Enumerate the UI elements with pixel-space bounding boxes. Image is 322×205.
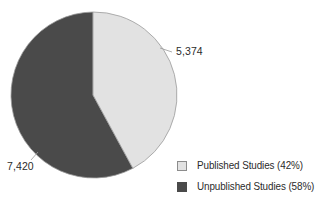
legend-label-published: Published Studies (42%) (197, 160, 303, 171)
pie-value-label-published: 5,374 (176, 46, 203, 57)
legend-swatch-published-icon (177, 161, 187, 171)
legend-item-published[interactable]: Published Studies (42%) (177, 155, 322, 176)
pie-chart-figure: 5,374 7,420 Published Studies (42%) Unpu… (0, 0, 322, 205)
chart-legend: Published Studies (42%) Unpublished Stud… (177, 155, 322, 197)
pie-value-label-unpublished: 7,420 (7, 161, 34, 172)
legend-label-unpublished: Unpublished Studies (58%) (197, 181, 314, 192)
legend-swatch-unpublished-icon (177, 182, 187, 192)
legend-item-unpublished[interactable]: Unpublished Studies (58%) (177, 176, 322, 197)
